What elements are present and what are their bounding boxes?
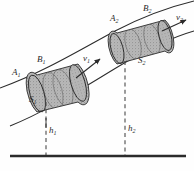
label-point-b2: B2 [143,4,152,13]
label-section-s2: S2 [138,56,146,65]
label-area-2: A2 [110,14,119,23]
label-velocity-v2: v2 [176,13,183,22]
diagram-canvas [0,0,194,171]
label-velocity-v1: v1 [83,54,90,63]
cylinder-left [25,63,90,114]
label-section-s1: S1 [29,95,37,104]
bernoulli-flow-diagram: A1 B1 S1 v1 A2 B2 S2 v2 h1 h2 [0,0,194,171]
label-point-b1: B1 [37,55,46,64]
label-height-h1: h1 [49,126,57,135]
label-area-1: A1 [12,68,21,77]
label-height-h2: h2 [128,124,136,133]
